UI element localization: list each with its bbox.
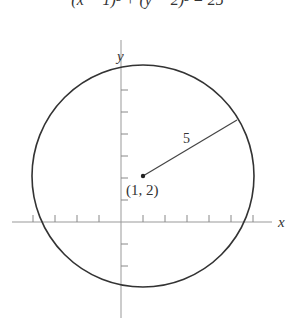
x-axis-label: x [277,214,285,230]
radius-line [143,120,237,176]
radius-label: 5 [183,131,190,146]
y-ticks [121,90,128,266]
center-point [141,174,145,178]
circle-diagram: y x 5 (1, 2) [0,0,295,328]
center-label: (1, 2) [126,182,159,199]
y-axis-label: y [115,48,124,64]
x-ticks [33,215,253,222]
